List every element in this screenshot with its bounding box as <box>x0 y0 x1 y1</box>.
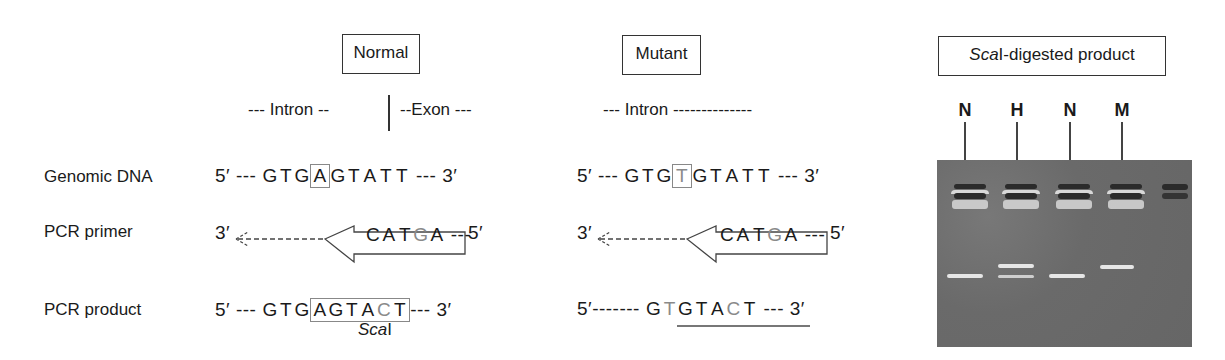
base: G <box>330 165 346 187</box>
lane-label-1: N <box>955 100 975 121</box>
base: C <box>719 224 735 246</box>
base: G <box>692 165 708 187</box>
three-prime-end: --- 3′ <box>416 165 457 186</box>
lane-tick <box>964 122 966 160</box>
lane-label-4: M <box>1112 100 1132 121</box>
mutant-header: Mutant <box>622 35 701 75</box>
base: A <box>360 299 376 321</box>
base: A <box>312 299 328 321</box>
base: T <box>392 299 408 321</box>
base: A <box>724 165 740 187</box>
five-prime-end: 5′ --- <box>215 299 256 320</box>
lane-tick <box>1121 122 1123 160</box>
introduced-base: C <box>376 299 392 321</box>
base: A <box>735 224 751 246</box>
base: G <box>646 298 662 320</box>
scai-site-box: AGTACT <box>310 298 410 322</box>
five-prime-end: 5′------- <box>577 298 640 319</box>
gel-image <box>937 160 1192 347</box>
base: G <box>262 299 278 321</box>
base: T <box>346 165 362 187</box>
row-label-product: PCR product <box>44 300 141 320</box>
lane-label-3: N <box>1060 100 1080 121</box>
mismatch-base: G <box>413 224 429 246</box>
base: T <box>278 299 294 321</box>
gel-header-rest: I-digested product <box>999 45 1135 64</box>
base: A <box>429 224 445 246</box>
mutant-primer-3prime: 3′ <box>577 222 592 244</box>
base: T <box>378 165 394 187</box>
normal-header: Normal <box>342 34 420 74</box>
base: T <box>694 298 710 320</box>
five-prime-end: 5′ --- <box>577 165 618 186</box>
base: G <box>294 165 310 187</box>
mutated-base: T <box>662 298 678 320</box>
base: G <box>328 299 344 321</box>
normal-intron-label: --- Intron -- <box>248 100 329 120</box>
base: A <box>783 224 799 246</box>
base: T <box>708 165 724 187</box>
base: T <box>640 165 656 187</box>
base: T <box>742 298 758 320</box>
three-prime-end: --- 3′ <box>410 299 451 320</box>
normal-product-sequence: 5′ --- GTGAGTACT--- 3′ <box>215 298 452 322</box>
mutated-base: T <box>672 164 692 188</box>
normal-genomic-sequence: 5′ --- GTGAGTATT --- 3′ <box>215 164 457 188</box>
mutant-product-sequence: 5′------- GTGTACT --- 3′ <box>577 298 805 320</box>
row-label-primer: PCR primer <box>44 222 133 242</box>
mutant-genomic-sequence: 5′ --- GTGTGTATT --- 3′ <box>577 164 819 188</box>
five-prime-end: 5′ --- <box>215 165 256 186</box>
intron-exon-boundary <box>388 95 390 131</box>
three-prime-end: --- 3′ <box>778 165 819 186</box>
base: C <box>365 224 381 246</box>
row-label-genomic: Genomic DNA <box>44 167 153 187</box>
base: T <box>756 165 772 187</box>
highlighted-base: A <box>310 164 330 188</box>
base: G <box>656 165 672 187</box>
three-prime-end: --- 3′ <box>763 298 804 319</box>
lane-tick <box>1016 122 1018 160</box>
base: A <box>381 224 397 246</box>
base: T <box>278 165 294 187</box>
normal-exon-label: --Exon --- <box>400 100 472 120</box>
lane-tick <box>1069 122 1071 160</box>
mutant-primer-5prime: 5′ <box>830 222 845 244</box>
scai-site-label: ScaI <box>358 320 392 340</box>
base: G <box>624 165 640 187</box>
mutant-primer-bases: CATGA --- <box>719 224 825 246</box>
base: G <box>294 299 310 321</box>
normal-primer-5prime: 5′ <box>468 222 483 244</box>
normal-primer-bases: CATGA --- <box>365 224 471 246</box>
dashes: --- <box>805 224 825 245</box>
base: T <box>751 224 767 246</box>
base: A <box>710 298 726 320</box>
base: T <box>394 165 410 187</box>
introduced-base: C <box>726 298 742 320</box>
base: T <box>344 299 360 321</box>
mutant-intron-label: --- Intron -------------- <box>603 100 752 120</box>
gel-header: ScaI-digested product <box>938 36 1166 76</box>
base: T <box>740 165 756 187</box>
lane-label-2: H <box>1007 100 1027 121</box>
enzyme-name: Sca <box>358 320 387 339</box>
base: A <box>362 165 378 187</box>
enzyme-suffix: I <box>387 320 392 339</box>
base: T <box>397 224 413 246</box>
base: G <box>678 298 694 320</box>
mismatch-base: G <box>767 224 783 246</box>
mutant-site-underline <box>677 325 810 327</box>
base: G <box>262 165 278 187</box>
normal-primer-3prime: 3′ <box>215 222 230 244</box>
gel-header-enzyme: Sca <box>969 45 998 64</box>
